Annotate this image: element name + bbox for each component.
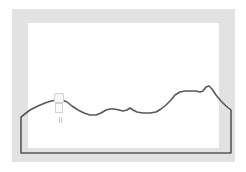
marker-body-icon: [55, 103, 63, 113]
terrain-profile-chart: [0, 0, 246, 172]
position-marker[interactable]: [54, 93, 64, 113]
marker-head-icon: [54, 93, 64, 103]
marker-stem-icon: [59, 117, 62, 123]
screenshot-root: [0, 0, 246, 172]
terrain-profile-line: [21, 86, 231, 153]
